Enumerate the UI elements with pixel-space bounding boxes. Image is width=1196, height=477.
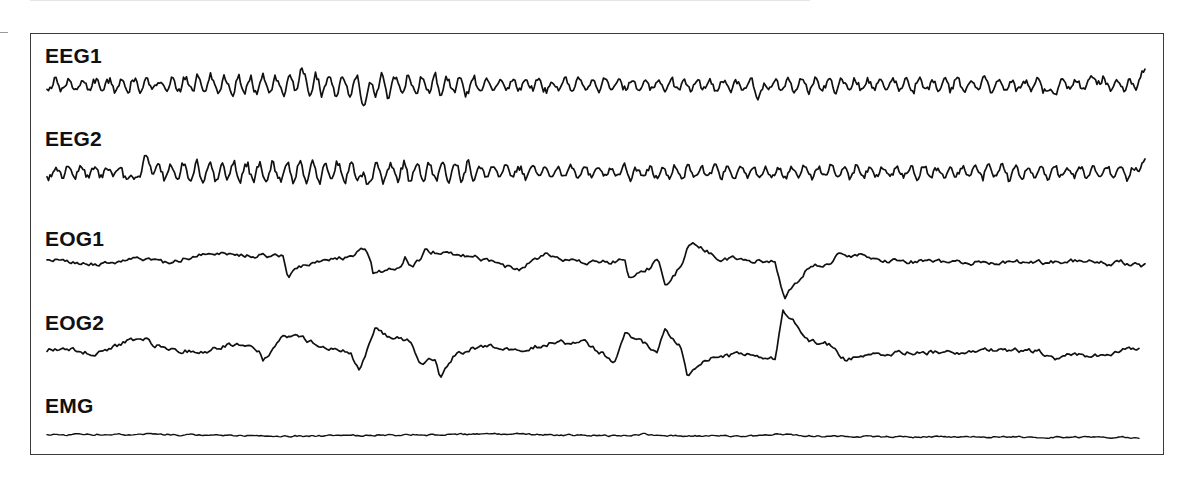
trace-eeg2 <box>47 156 1145 185</box>
trace-emg <box>47 433 1139 438</box>
trace-eog1 <box>47 243 1145 299</box>
trace-eog2 <box>47 310 1139 377</box>
trace-eeg1 <box>47 68 1145 106</box>
waveform-canvas <box>0 0 1196 477</box>
